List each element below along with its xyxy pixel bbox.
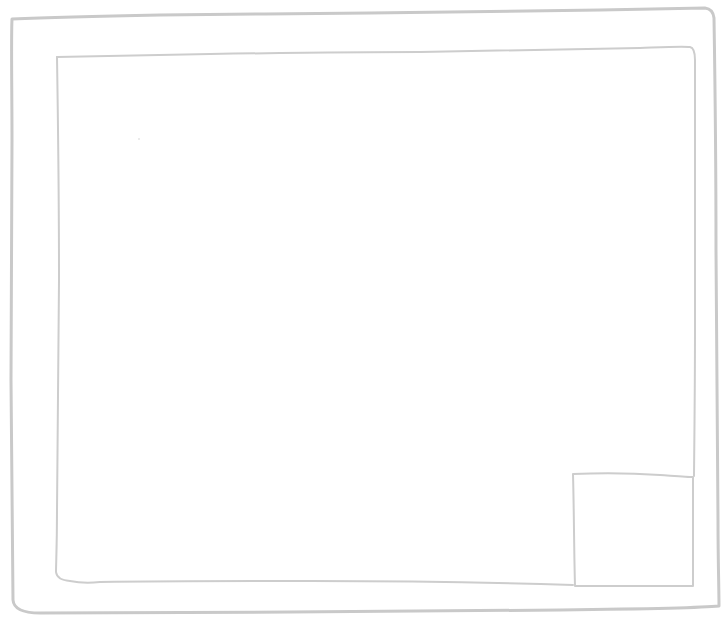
inner-frame-left-bottom bbox=[56, 57, 573, 585]
outer-frame bbox=[11, 8, 719, 613]
speck-mark bbox=[138, 138, 140, 140]
corner-box bbox=[573, 473, 693, 586]
inner-frame bbox=[57, 47, 695, 476]
wireframe-sketch bbox=[0, 0, 724, 621]
